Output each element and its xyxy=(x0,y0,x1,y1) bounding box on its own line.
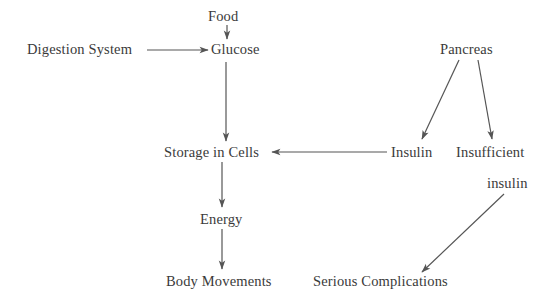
edge-pancreas-to-insulin xyxy=(422,60,459,139)
node-food: Food xyxy=(208,9,238,24)
edge-insufficient-insulin-to-serious-complications xyxy=(422,194,504,272)
edge-pancreas-to-insufficient-insulin xyxy=(478,60,492,139)
node-pancreas: Pancreas xyxy=(440,42,493,57)
node-serious-complications: Serious Complications xyxy=(313,274,448,289)
node-glucose: Glucose xyxy=(211,42,260,57)
node-insufficient: Insufficient xyxy=(456,145,524,160)
node-insulin: Insulin xyxy=(391,145,432,160)
node-digestion-system: Digestion System xyxy=(27,42,132,57)
node-insufficient-insulin-second-line: insulin xyxy=(487,176,528,191)
node-body-movements: Body Movements xyxy=(166,274,272,289)
flowchart-diagram: Food Digestion System Glucose Pancreas S… xyxy=(0,0,554,304)
node-storage-in-cells: Storage in Cells xyxy=(164,145,259,160)
node-energy: Energy xyxy=(200,212,243,227)
